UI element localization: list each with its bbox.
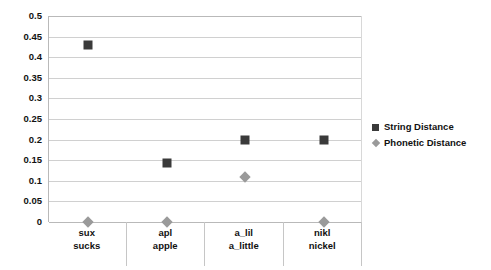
x-axis-category-nikl: niklnickel xyxy=(284,222,363,266)
legend-item-2[interactable]: Phonetic Distance xyxy=(372,136,488,150)
gridline xyxy=(49,57,361,58)
gridline xyxy=(49,181,361,182)
y-axis-tick-label: 0.1 xyxy=(0,176,42,186)
y-axis-tick-label: 0 xyxy=(0,217,42,227)
y-axis: 0.50.450.40.350.30.250.20.150.10.050 xyxy=(0,0,42,270)
gridline xyxy=(49,140,361,141)
x-axis-category-band: suxsucksaplapplea_lila_littleniklnickel xyxy=(48,222,362,266)
gridline xyxy=(49,37,361,38)
gridline xyxy=(49,201,361,202)
data-point-square xyxy=(319,135,328,144)
scatter-chart: 0.50.450.40.350.30.250.20.150.10.050 sux… xyxy=(0,0,491,270)
category-label-line2: a_little xyxy=(229,239,259,252)
gridline xyxy=(49,98,361,99)
x-axis-category-a_lil: a_lila_little xyxy=(205,222,284,266)
chart-legend: String DistancePhonetic Distance xyxy=(372,120,488,152)
y-axis-tick-label: 0.15 xyxy=(0,155,42,165)
data-point-square xyxy=(162,159,171,168)
legend-square-icon xyxy=(372,124,379,131)
y-axis-tick-label: 0.05 xyxy=(0,197,42,207)
gridline xyxy=(49,78,361,79)
gridline xyxy=(49,16,361,17)
x-axis-category-sux: suxsucks xyxy=(48,222,127,266)
category-label-line1: apl xyxy=(158,226,172,239)
legend-label: String Distance xyxy=(384,122,454,132)
category-label-line1: a_lil xyxy=(235,226,254,239)
y-axis-tick-label: 0.35 xyxy=(0,73,42,83)
y-axis-tick-label: 0.45 xyxy=(0,32,42,42)
legend-diamond-icon xyxy=(372,139,380,147)
y-axis-tick-label: 0.25 xyxy=(0,114,42,124)
legend-item-1[interactable]: String Distance xyxy=(372,120,488,134)
y-axis-tick-label: 0.2 xyxy=(0,135,42,145)
category-label-line1: sux xyxy=(79,226,95,239)
data-point-square xyxy=(241,135,250,144)
gridline xyxy=(49,119,361,120)
category-label-line2: sucks xyxy=(73,239,100,252)
category-label-line2: nickel xyxy=(309,239,336,252)
y-axis-tick-label: 0.3 xyxy=(0,94,42,104)
plot-area xyxy=(48,16,362,222)
y-axis-tick-label: 0.4 xyxy=(0,52,42,62)
category-label-line2: apple xyxy=(153,239,178,252)
x-axis-category-apl: aplapple xyxy=(127,222,206,266)
y-axis-tick-label: 0.5 xyxy=(0,11,42,21)
legend-label: Phonetic Distance xyxy=(384,138,466,148)
category-label-line1: nikl xyxy=(314,226,330,239)
gridline xyxy=(49,160,361,161)
data-point-square xyxy=(84,40,93,49)
